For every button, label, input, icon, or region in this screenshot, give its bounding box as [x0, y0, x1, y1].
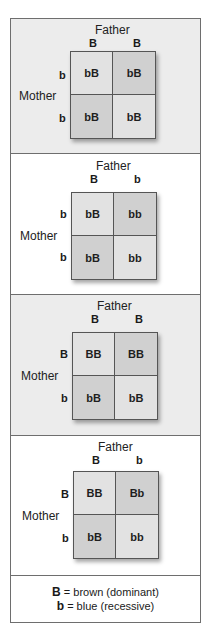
offspring-cell: bb — [114, 236, 156, 279]
punnett-panel-1: Father B B Mother b b bB bB bB bB — [11, 19, 200, 154]
mother-allele-1: b — [60, 208, 67, 220]
punnett-grid: BB Bb bB bb — [73, 471, 159, 559]
father-label: Father — [98, 440, 133, 454]
offspring-cell: bB — [113, 95, 155, 138]
mother-allele-2: b — [59, 112, 66, 124]
mother-label: Mother — [19, 89, 56, 103]
punnett-panel-2: Father B b Mother b b bB bb bB bb — [11, 154, 200, 295]
mother-allele-2: b — [60, 251, 67, 263]
legend: B = brown (dominant) b = blue (recessive… — [11, 576, 200, 622]
offspring-cell: bB — [72, 236, 114, 279]
punnett-grid: bB bB bB bB — [70, 51, 156, 139]
diagram-frame: Father B B Mother b b bB bB bB bB Father… — [10, 18, 201, 623]
legend-item-blue: b = blue (recessive) — [11, 599, 200, 613]
mother-allele-2: b — [62, 532, 69, 544]
father-allele-2: B — [135, 313, 143, 325]
punnett-grid: bB bb bB bb — [71, 192, 157, 280]
offspring-cell: bB — [72, 193, 114, 236]
offspring-cell: bb — [116, 515, 158, 558]
mother-allele-2: b — [61, 392, 68, 404]
offspring-cell: bB — [74, 515, 116, 558]
offspring-cell: bB — [113, 52, 155, 95]
offspring-cell: bB — [73, 376, 115, 419]
father-label: Father — [97, 299, 132, 313]
offspring-cell: bB — [115, 376, 157, 419]
offspring-cell: BB — [74, 472, 116, 515]
father-allele-1: B — [89, 37, 97, 49]
offspring-cell: Bb — [116, 472, 158, 515]
father-allele-2: B — [133, 37, 141, 49]
offspring-cell: bB — [71, 52, 113, 95]
punnett-panel-4: Father B b Mother B b BB Bb bB bb — [11, 436, 200, 576]
mother-allele-1: B — [61, 488, 69, 500]
father-allele-2: b — [134, 173, 141, 185]
father-allele-1: B — [90, 173, 98, 185]
father-label: Father — [95, 23, 130, 37]
mother-allele-1: B — [60, 348, 68, 360]
legend-symbol: B — [52, 585, 61, 599]
legend-text: = brown (dominant) — [61, 586, 159, 598]
punnett-grid: BB BB bB bB — [72, 332, 158, 420]
father-label: Father — [96, 159, 131, 173]
offspring-cell: bb — [114, 193, 156, 236]
legend-item-brown: B = brown (dominant) — [11, 585, 200, 599]
offspring-cell: BB — [115, 333, 157, 376]
legend-symbol: b — [57, 599, 64, 613]
offspring-cell: BB — [73, 333, 115, 376]
offspring-cell: bB — [71, 95, 113, 138]
father-allele-1: B — [91, 313, 99, 325]
father-allele-1: B — [92, 454, 100, 466]
punnett-panel-3: Father B B Mother B b BB BB bB bB — [11, 295, 200, 436]
mother-label: Mother — [20, 229, 57, 243]
mother-allele-1: b — [59, 69, 66, 81]
legend-text: = blue (recessive) — [64, 600, 154, 612]
mother-label: Mother — [21, 369, 58, 383]
mother-label: Mother — [22, 509, 59, 523]
father-allele-2: b — [136, 454, 143, 466]
